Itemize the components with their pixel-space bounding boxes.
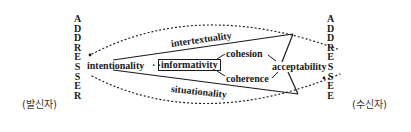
addressee-label: A D D R E S S E E: [327, 14, 334, 100]
letter: E: [327, 91, 334, 101]
branch-to-coherence: [217, 71, 225, 76]
right-arrow-tip: [323, 77, 326, 80]
coherence-to-acceptability: [272, 72, 278, 78]
coherence-label: coherence: [226, 74, 269, 84]
triangle-top-to-bottom: [282, 34, 293, 62]
addresser-label: A D D R E S S E R: [74, 14, 81, 100]
triangle-bottom-edge: [288, 72, 298, 94]
acceptability-label: acceptability: [272, 62, 326, 72]
cohesion-label: cohesion: [226, 49, 263, 59]
addressee-korean: (수신자): [352, 96, 387, 111]
left-arrow-tip: [89, 54, 92, 57]
letter: R: [74, 91, 81, 101]
intentionality-label: intentionality: [87, 61, 144, 71]
addresser-korean: (발신자): [22, 96, 57, 111]
informativity-box: informativity: [158, 59, 221, 71]
